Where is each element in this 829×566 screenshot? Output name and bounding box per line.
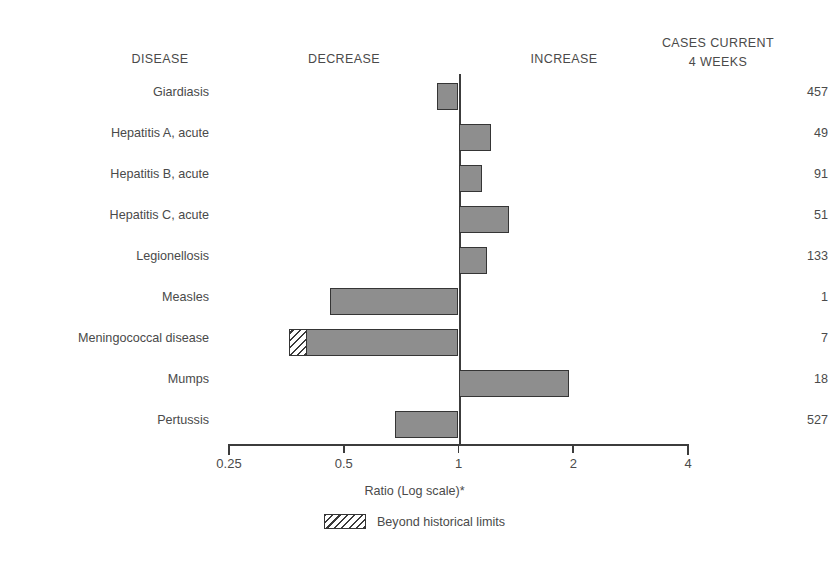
case-count-value: 51 bbox=[708, 208, 828, 222]
ratio-bar bbox=[289, 329, 458, 356]
legend: Beyond historical limits bbox=[0, 514, 829, 529]
beyond-historical-limits-segment bbox=[289, 329, 306, 356]
ratio-bar bbox=[330, 288, 459, 315]
case-count-value: 7 bbox=[708, 331, 828, 345]
table-row: Meningococcal disease7 bbox=[229, 322, 688, 363]
x-axis-tick-label: 2 bbox=[543, 456, 603, 471]
x-axis-tick-label: 0.25 bbox=[199, 456, 259, 471]
case-count-value: 91 bbox=[708, 167, 828, 181]
plot-area: Giardiasis457Hepatitis A, acute49Hepatit… bbox=[229, 74, 688, 444]
column-header-cases: CASES CURRENT 4 WEEKS bbox=[648, 34, 788, 72]
column-header-cases-line2: 4 WEEKS bbox=[648, 53, 788, 72]
disease-label: Measles bbox=[0, 290, 209, 304]
case-count-value: 18 bbox=[708, 372, 828, 386]
table-row: Pertussis527 bbox=[229, 404, 688, 445]
table-row: Hepatitis C, acute51 bbox=[229, 199, 688, 240]
case-count-value: 1 bbox=[708, 290, 828, 304]
disease-label: Pertussis bbox=[0, 413, 209, 427]
ratio-bar bbox=[437, 83, 458, 110]
ratio-bar bbox=[459, 165, 482, 192]
x-axis-title: Ratio (Log scale)* bbox=[0, 484, 829, 498]
legend-label: Beyond historical limits bbox=[377, 515, 505, 529]
x-axis-tick bbox=[343, 444, 345, 453]
table-row: Legionellosis133 bbox=[229, 240, 688, 281]
column-header-decrease: DECREASE bbox=[289, 52, 399, 66]
x-axis-tick-label: 4 bbox=[658, 456, 718, 471]
table-row: Mumps18 bbox=[229, 363, 688, 404]
column-header-cases-line1: CASES CURRENT bbox=[662, 36, 774, 50]
x-axis-tick bbox=[228, 444, 230, 455]
hatched-swatch-icon bbox=[324, 514, 366, 529]
case-count-value: 457 bbox=[708, 85, 828, 99]
x-axis-tick bbox=[458, 444, 460, 453]
column-header-increase: INCREASE bbox=[509, 52, 619, 66]
table-row: Measles1 bbox=[229, 281, 688, 322]
ratio-bar bbox=[395, 411, 459, 438]
disease-label: Giardiasis bbox=[0, 85, 209, 99]
x-axis-tick-label: 1 bbox=[429, 456, 489, 471]
disease-label: Hepatitis B, acute bbox=[0, 167, 209, 181]
x-axis-tick-label: 0.5 bbox=[314, 456, 374, 471]
disease-label: Hepatitis A, acute bbox=[0, 126, 209, 140]
x-axis: 0.250.5124 bbox=[229, 444, 688, 446]
case-count-value: 527 bbox=[708, 413, 828, 427]
table-row: Hepatitis B, acute91 bbox=[229, 158, 688, 199]
x-axis-tick bbox=[687, 444, 689, 455]
ratio-bar bbox=[459, 206, 510, 233]
ratio-bar bbox=[459, 370, 570, 397]
table-row: Hepatitis A, acute49 bbox=[229, 117, 688, 158]
case-count-value: 133 bbox=[708, 249, 828, 263]
table-row: Giardiasis457 bbox=[229, 76, 688, 117]
x-axis-tick bbox=[572, 444, 574, 453]
case-count-value: 49 bbox=[708, 126, 828, 140]
ratio-log-scale-chart: DISEASE DECREASE INCREASE CASES CURRENT … bbox=[0, 0, 829, 566]
disease-label: Hepatitis C, acute bbox=[0, 208, 209, 222]
disease-label: Mumps bbox=[0, 372, 209, 386]
disease-label: Legionellosis bbox=[0, 249, 209, 263]
ratio-bar bbox=[459, 124, 492, 151]
disease-label: Meningococcal disease bbox=[0, 331, 209, 345]
ratio-bar bbox=[459, 247, 488, 274]
column-header-disease: DISEASE bbox=[105, 52, 215, 66]
